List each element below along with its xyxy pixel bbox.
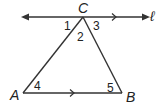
angle-label-3: 3 bbox=[93, 19, 100, 33]
line-label: ℓ bbox=[149, 8, 155, 24]
vertex-label-a: A bbox=[9, 87, 19, 103]
angle-label-5: 5 bbox=[107, 81, 114, 95]
angle-label-1: 1 bbox=[64, 19, 71, 33]
triangle-parallel-line-diagram: ℓ C A B 1 2 3 4 5 bbox=[0, 0, 159, 111]
vertex-label-b: B bbox=[126, 89, 135, 105]
left-arrowhead-icon bbox=[21, 14, 29, 21]
angle-label-2: 2 bbox=[77, 30, 84, 44]
right-arrowhead-icon bbox=[142, 14, 150, 21]
vertex-label-c: C bbox=[78, 0, 89, 16]
angle-label-4: 4 bbox=[34, 79, 41, 93]
